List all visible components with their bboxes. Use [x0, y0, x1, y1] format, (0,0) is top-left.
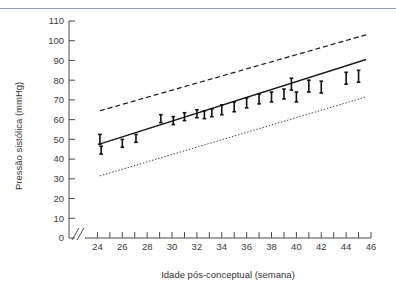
x-tick-label: 32 [192, 241, 203, 252]
series-group [98, 35, 366, 176]
x-tick-label: 42 [316, 241, 327, 252]
y-tick-label: 60 [53, 114, 64, 125]
y-tick-label: 30 [53, 173, 64, 184]
y-tick-marks [69, 21, 75, 238]
mean-regression-line [99, 59, 366, 144]
figure-container: 0102030405060708090100110 24262830323436… [0, 0, 396, 298]
y-tick-label: 110 [49, 15, 64, 26]
y-tick-label: 10 [53, 213, 64, 224]
y-tick-labels: 0102030405060708090100110 [48, 15, 64, 243]
x-tick-label: 44 [341, 241, 352, 252]
x-tick-label: 28 [142, 241, 153, 252]
x-tick-label: 46 [366, 241, 377, 252]
y-tick-label: 80 [53, 75, 64, 86]
x-tick-label: 38 [266, 241, 277, 252]
y-tick-label: 90 [53, 55, 64, 66]
lower-limit-line [100, 97, 366, 176]
y-tick-label: 40 [53, 153, 64, 164]
x-tick-label: 24 [92, 241, 103, 252]
x-tick-marks [97, 232, 371, 238]
x-tick-label: 40 [291, 241, 302, 252]
x-tick-label: 36 [241, 241, 252, 252]
y-tick-label: 0 [59, 232, 64, 243]
data-point-errorbars [98, 70, 360, 154]
y-tick-label: 70 [53, 94, 64, 105]
y-tick-label: 100 [48, 35, 64, 46]
x-tick-label: 30 [167, 241, 178, 252]
x-tick-label: 26 [117, 241, 128, 252]
chart-canvas: 0102030405060708090100110 24262830323436… [0, 0, 396, 298]
y-axis-title: Pressão sistólica (mmHg) [13, 82, 24, 190]
x-axis-group: 242628303234363840424446 [85, 232, 376, 252]
y-tick-label: 50 [53, 134, 64, 145]
x-tick-label: 34 [216, 241, 227, 252]
x-axis-title: Idade pós-conceptual (semana) [161, 269, 295, 280]
x-tick-labels: 242628303234363840424446 [92, 241, 376, 252]
y-axis-group: 0102030405060708090100110 [48, 15, 84, 243]
y-tick-label: 20 [53, 193, 64, 204]
